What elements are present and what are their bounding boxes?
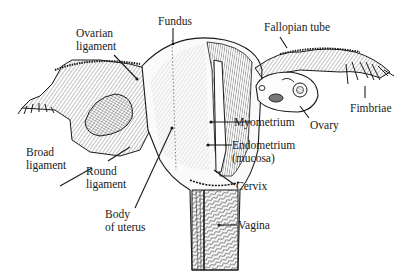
label-myometrium: Myometrium <box>234 116 295 129</box>
label-broad-ligament: Broadligament <box>26 146 66 171</box>
left-adnexa <box>18 60 150 156</box>
label-round-ligament: Roundligament <box>86 165 126 190</box>
anatomy-diagram: Fundus Fallopian tube Ovarianligament Fi… <box>0 0 408 276</box>
label-fallopian-tube: Fallopian tube <box>264 21 330 34</box>
label-fundus: Fundus <box>158 15 192 28</box>
label-ovary: Ovary <box>310 119 339 132</box>
label-vagina: Vagina <box>238 219 270 232</box>
uterus-illustration <box>0 0 408 276</box>
label-body-of-uterus: Bodyof uterus <box>105 208 146 233</box>
label-fimbriae: Fimbriae <box>350 102 392 115</box>
label-cervix: Cervix <box>236 180 267 193</box>
label-ovarian-ligament: Ovarianligament <box>76 27 116 52</box>
label-endometrium: Endometrium(mucosa) <box>232 139 295 164</box>
